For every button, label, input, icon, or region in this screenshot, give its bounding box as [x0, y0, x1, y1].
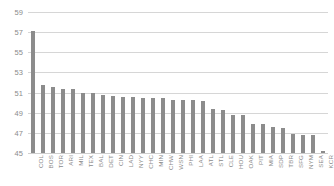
bar-slot [158, 12, 168, 153]
x-axis-label-slot: ARI [58, 154, 68, 186]
bar-slot [268, 12, 278, 153]
bar[interactable] [191, 100, 194, 153]
bar-slot [278, 12, 288, 153]
x-axis-label-slot: TEX [78, 154, 88, 186]
bar[interactable] [91, 93, 94, 153]
bar[interactable] [311, 135, 314, 153]
y-axis-tick-label: 45 [14, 149, 23, 158]
bar-slot [68, 12, 78, 153]
bar-slot [118, 12, 128, 153]
bar[interactable] [271, 127, 274, 153]
x-axis-label-slot: LAD [118, 154, 128, 186]
x-axis-label-slot: NYY [128, 154, 138, 186]
y-axis-tick-label: 57 [14, 28, 23, 37]
bar-slot [208, 12, 218, 153]
y-axis-tick-label: 53 [14, 68, 23, 77]
y-axis-tick-label: 59 [14, 8, 23, 17]
x-axis-label-slot: STL [208, 154, 218, 186]
bar[interactable] [121, 97, 124, 153]
bar[interactable] [171, 100, 174, 153]
bar[interactable] [261, 124, 264, 153]
bar[interactable] [201, 101, 204, 153]
bar[interactable] [81, 93, 84, 153]
bar-slot [78, 12, 88, 153]
x-axis-labels: COLBOSTORARIMILTEXBALDETCINLADNYYCHCMINC… [28, 154, 328, 186]
bar[interactable] [221, 110, 224, 153]
y-axis-tick-label: 47 [14, 128, 23, 137]
bar-slot [178, 12, 188, 153]
bar[interactable] [51, 87, 54, 153]
bar[interactable] [31, 31, 34, 153]
y-axis-tick-label: 49 [14, 108, 23, 117]
bar[interactable] [211, 109, 214, 153]
bar-series [28, 12, 328, 153]
bar[interactable] [141, 98, 144, 153]
bar-slot [258, 12, 268, 153]
x-axis-label-slot: TOR [48, 154, 58, 186]
bar-slot [308, 12, 318, 153]
bar-slot [238, 12, 248, 153]
y-axis: 5957555351494745 [0, 0, 26, 153]
bar[interactable] [291, 134, 294, 153]
bar[interactable] [61, 89, 64, 153]
bar[interactable] [231, 115, 234, 153]
x-axis-label-slot: HOU [228, 154, 238, 186]
x-axis-label-slot: DET [98, 154, 108, 186]
x-axis-label-slot: KCR [318, 154, 328, 186]
bar-slot [48, 12, 58, 153]
x-axis-label-slot: LAA [188, 154, 198, 186]
bar-slot [38, 12, 48, 153]
bar-slot [98, 12, 108, 153]
bar-slot [298, 12, 308, 153]
x-axis-label-slot: ATL [198, 154, 208, 186]
x-axis-label-slot: CLE [218, 154, 228, 186]
x-axis-label-slot: CHC [138, 154, 148, 186]
bar-slot [248, 12, 258, 153]
x-axis-label-slot: COL [28, 154, 38, 186]
bar-slot [58, 12, 68, 153]
bar[interactable] [131, 97, 134, 153]
bar[interactable] [111, 96, 114, 153]
bar-slot [28, 12, 38, 153]
bar-slot [88, 12, 98, 153]
bar[interactable] [101, 95, 104, 153]
plot-area [28, 12, 328, 153]
x-axis-tick-label: KCR [327, 155, 334, 168]
x-axis-label-slot: BAL [88, 154, 98, 186]
x-axis-label-slot: MIL [68, 154, 78, 186]
x-axis-label-slot: CIN [108, 154, 118, 186]
x-axis-label-slot: WSN [168, 154, 178, 186]
x-axis-label-slot: NYM [298, 154, 308, 186]
bar-slot [128, 12, 138, 153]
x-axis-label-slot: SDP [268, 154, 278, 186]
x-axis-label-slot: MIA [258, 154, 268, 186]
bar-slot [228, 12, 238, 153]
y-axis-tick-label: 55 [14, 48, 23, 57]
bar[interactable] [181, 100, 184, 153]
bar-slot [148, 12, 158, 153]
bar-slot [168, 12, 178, 153]
x-axis-label-slot: SEA [308, 154, 318, 186]
bar[interactable] [41, 85, 44, 153]
bar[interactable] [241, 115, 244, 153]
x-axis-label-slot: CHW [158, 154, 168, 186]
bar-slot [108, 12, 118, 153]
bar-slot [218, 12, 228, 153]
x-axis-label-slot: SFG [288, 154, 298, 186]
bar[interactable] [151, 98, 154, 153]
x-axis-label-slot: BOS [38, 154, 48, 186]
chart-title [0, 0, 333, 8]
bar[interactable] [161, 98, 164, 153]
bar[interactable] [301, 135, 304, 153]
bar[interactable] [281, 128, 284, 153]
x-axis-label-slot: PIT [248, 154, 258, 186]
x-axis-label-slot: MIN [148, 154, 158, 186]
bar-slot [138, 12, 148, 153]
bar[interactable] [71, 89, 74, 153]
x-axis-label-slot: PHI [178, 154, 188, 186]
bar[interactable] [251, 124, 254, 153]
bar[interactable] [321, 151, 324, 153]
x-axis-label-slot: OAK [238, 154, 248, 186]
bar-slot [198, 12, 208, 153]
